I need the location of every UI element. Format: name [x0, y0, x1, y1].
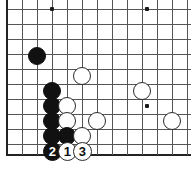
move-number: 2 [49, 144, 56, 157]
star-point [50, 7, 54, 11]
stone-white [133, 82, 151, 100]
star-point [145, 104, 149, 108]
stone-white [88, 112, 106, 130]
stone-white [73, 67, 91, 85]
star-point [145, 7, 149, 11]
move-number: 3 [79, 144, 86, 157]
stones-layer: 213 [0, 0, 191, 172]
numbered-stone-white: 3 [73, 142, 92, 161]
stone-black [28, 47, 46, 65]
stone-white [163, 112, 181, 130]
go-board-diagram: 213 [0, 0, 191, 172]
move-number: 1 [64, 144, 71, 157]
